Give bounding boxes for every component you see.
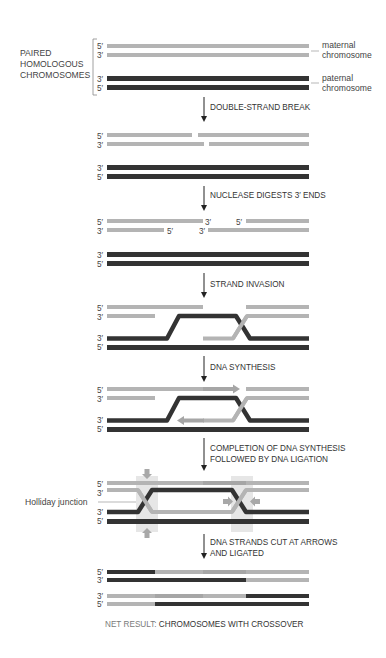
prime-label: 3′	[97, 416, 104, 425]
label-holliday-junction: Holliday junction	[25, 497, 88, 507]
prime-label: 5′	[97, 304, 104, 313]
prime-label: 3′	[97, 51, 104, 60]
prime-label: 3′	[199, 227, 206, 236]
paternal-segment	[155, 602, 309, 606]
panel-crossover-result: 5′ 3′ 3′ 5′ NET RESULT: CHROMOSOMES WITH…	[97, 568, 309, 629]
prime-label: 5′	[97, 42, 104, 51]
invading-maternal-strand	[203, 316, 309, 339]
paternal-strand	[107, 252, 309, 257]
prime-label: 3′	[97, 141, 104, 150]
invading-maternal-strand	[203, 398, 309, 421]
panel-strand-invasion: 5′ 3′ 3′ 5′	[97, 304, 309, 352]
maternal-strand	[208, 228, 309, 232]
prime-label: 3′	[97, 334, 104, 343]
net-result-text: CHROMOSOMES WITH CROSSOVER	[159, 620, 304, 629]
prime-label: 5′	[97, 480, 104, 489]
maternal-strand	[107, 228, 164, 232]
maternal-strand	[246, 305, 309, 309]
new-synthesis-strand	[203, 387, 234, 391]
prime-label: 5′	[97, 343, 104, 352]
new-synthesis-strand	[203, 481, 246, 485]
panel-holliday-junction: 5′ 3′ 3′ 5′ Holliday junction	[25, 469, 309, 538]
label-paternal: paternal	[322, 73, 353, 83]
step-arrow-6: DNA STRANDS CUT AT ARROWS AND LIGATED	[204, 534, 338, 558]
maternal-strand	[107, 305, 203, 309]
step-arrow-2: NUCLEASE DIGESTS 3′ ENDS	[204, 186, 326, 208]
prime-label: 3′	[97, 489, 104, 498]
step-label: FOLLOWED BY DNA LIGATION	[210, 455, 328, 464]
prime-label: 3′	[97, 75, 104, 84]
homologous-recombination-diagram: PAIRED HOMOLOGOUS CHROMOSOMES 5′ 3′ 3′ 5…	[0, 0, 386, 658]
prime-label: 5′	[97, 425, 104, 434]
prime-label: 3′	[97, 313, 104, 322]
step-label: DNA SYNTHESIS	[210, 363, 276, 372]
maternal-strand	[107, 142, 204, 146]
label-homologous: HOMOLOGOUS	[20, 59, 84, 69]
step-label: COMPLETION OF DNA SYNTHESIS	[210, 444, 346, 453]
maternal-segment	[246, 578, 309, 582]
panel-paired-chromosomes: PAIRED HOMOLOGOUS CHROMOSOMES 5′ 3′ 3′ 5…	[20, 39, 372, 95]
maternal-strand	[107, 133, 192, 137]
step-arrow-4: DNA SYNTHESIS	[204, 356, 276, 379]
prime-label: 3′	[97, 508, 104, 517]
paternal-strand	[107, 427, 309, 432]
maternal-strand	[209, 142, 309, 146]
prime-label: 3′	[97, 227, 104, 236]
prime-label: 5′	[97, 600, 104, 609]
paternal-segment	[246, 594, 309, 598]
maternal-strand	[107, 396, 155, 400]
prime-label: 3′	[97, 251, 104, 260]
label-chromosomes: CHROMOSOMES	[20, 70, 90, 80]
step-label: NUCLEASE DIGESTS 3′ ENDS	[210, 191, 326, 200]
maternal-segment	[107, 602, 155, 606]
step-label: AND LIGATED	[210, 549, 264, 558]
panel-dna-synthesis: 5′ 3′ 3′ 5′	[97, 385, 309, 435]
label-maternal-chromosome: chromosome	[322, 50, 372, 60]
displaced-paternal-strand	[107, 398, 309, 421]
synthesis-arrowhead-icon	[233, 385, 240, 394]
new-synthesis-segment	[155, 594, 203, 598]
prime-label: 5′	[97, 84, 104, 93]
maternal-strand	[198, 133, 309, 137]
paternal-segment	[107, 578, 246, 582]
new-synthesis-segment	[203, 570, 246, 574]
step-label: DOUBLE-STRAND BREAK	[210, 103, 311, 112]
maternal-strand	[107, 387, 203, 391]
maternal-strand	[246, 387, 309, 391]
prime-label: 5′	[236, 218, 243, 227]
prime-label: 5′	[97, 386, 104, 395]
new-synthesis-strand	[184, 419, 204, 423]
step-label: DNA STRANDS CUT AT ARROWS	[210, 538, 338, 547]
paternal-strand	[107, 85, 309, 90]
net-result-prefix: NET RESULT:	[105, 620, 159, 629]
prime-label: 5′	[97, 260, 104, 269]
paternal-strand	[107, 165, 309, 170]
paternal-strand	[107, 345, 309, 350]
displaced-paternal-strand	[107, 316, 309, 339]
prime-label: 5′	[97, 218, 104, 227]
panel-nuclease-digestion: 5′ 3′ 3′ 5′ 3′ 5′ 5′ 3′	[97, 218, 309, 269]
paternal-strand	[107, 261, 309, 266]
maternal-strand	[107, 314, 155, 318]
net-result-caption: NET RESULT: CHROMOSOMES WITH CROSSOVER	[105, 620, 304, 629]
step-arrow-3: STRAND INVASION	[204, 273, 285, 295]
label-paternal-chromosome: chromosome	[322, 83, 372, 93]
prime-label: 5′	[167, 227, 174, 236]
paternal-strand	[107, 174, 309, 179]
synthesis-arrowhead-icon	[177, 416, 184, 425]
panel-double-strand-break: 5′ 3′ 3′ 5′	[97, 132, 309, 182]
prime-label: 5′	[97, 173, 104, 182]
paternal-segment	[107, 570, 155, 574]
prime-label: 3′	[205, 218, 212, 227]
step-arrow-5: COMPLETION OF DNA SYNTHESIS FOLLOWED BY …	[204, 438, 346, 468]
label-maternal: maternal	[322, 40, 356, 50]
paternal-strand	[107, 76, 309, 81]
prime-label: 3′	[97, 164, 104, 173]
prime-label: 5′	[97, 517, 104, 526]
step-label: STRAND INVASION	[210, 280, 285, 289]
maternal-strand	[107, 53, 309, 57]
label-paired: PAIRED	[20, 48, 51, 58]
maternal-strand	[107, 44, 309, 48]
paternal-strand	[107, 519, 309, 524]
prime-label: 3′	[97, 395, 104, 404]
